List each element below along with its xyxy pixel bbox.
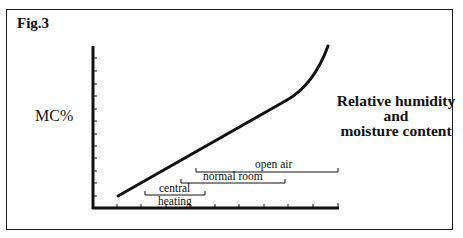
- heating-label: heating: [158, 195, 192, 208]
- normal-room-label: normal room: [203, 170, 263, 182]
- chart-plot: open air normal room central heating: [0, 0, 463, 238]
- axes: [92, 46, 339, 209]
- central-label: central: [159, 182, 190, 194]
